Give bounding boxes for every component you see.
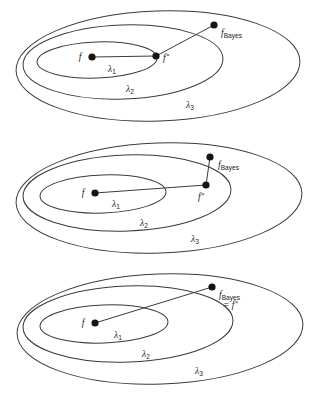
label-lambda1: λ1 <box>107 64 116 75</box>
label-lambda3: λ3 <box>190 234 199 245</box>
segment-fstar-to-fbayes <box>206 157 210 185</box>
ellipse-lambda1 <box>39 173 166 215</box>
point-f <box>88 53 95 60</box>
ellipse-lambda1 <box>36 40 157 80</box>
label-f-bayes-equals-f-star: = f* <box>223 299 238 310</box>
label-lambda1: λ1 <box>111 199 120 210</box>
point-f-bayes <box>208 283 215 290</box>
point-f-bayes <box>206 153 213 160</box>
diagram-panel-3: f fBayes = f* λ1 λ2 λ3 <box>0 264 318 396</box>
point-f <box>91 189 98 196</box>
label-f-bayes: fBayes <box>221 28 243 40</box>
label-lambda2: λ2 <box>125 84 134 95</box>
point-f-bayes <box>210 21 217 28</box>
ellipse-lambda1 <box>39 303 168 345</box>
label-lambda2: λ2 <box>139 218 148 229</box>
diagram-panel-1: f f* fBayes λ1 λ2 λ3 <box>0 0 318 132</box>
panel-2-canvas: f f* fBayes λ1 λ2 λ3 <box>0 132 318 264</box>
label-f-bayes: fBayes <box>218 160 240 172</box>
point-f-star <box>152 52 159 59</box>
label-f-star: f* <box>163 52 170 63</box>
label-lambda3: λ3 <box>185 100 194 111</box>
panel-3-canvas: f fBayes = f* λ1 λ2 λ3 <box>0 264 318 396</box>
label-lambda2: λ2 <box>141 349 150 360</box>
label-lambda3: λ3 <box>194 366 203 377</box>
label-lambda1: λ1 <box>113 330 122 341</box>
label-f: f <box>82 318 86 328</box>
label-f: f <box>79 52 83 62</box>
point-f-star <box>202 181 209 188</box>
point-f <box>91 319 98 326</box>
diagram-panel-2: f f* fBayes λ1 λ2 λ3 <box>0 132 318 264</box>
ellipse-lambda2 <box>22 282 235 365</box>
segment-f-to-fstar <box>95 185 206 193</box>
segment-f-to-fstar <box>92 56 156 57</box>
nested-model-class-figure: f f* fBayes λ1 λ2 λ3 <box>0 0 318 396</box>
ellipse-lambda2 <box>22 22 224 103</box>
label-f-star: f* <box>198 191 205 202</box>
panel-1-canvas: f f* fBayes λ1 λ2 λ3 <box>0 0 318 132</box>
label-f: f <box>82 188 86 198</box>
ellipse-lambda3 <box>14 6 302 126</box>
